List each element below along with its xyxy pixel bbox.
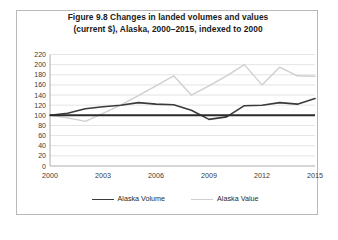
y-axis-tick-label: 180 <box>20 71 46 78</box>
y-axis-tick-label: 200 <box>20 61 46 68</box>
x-axis-tick-label: 2012 <box>242 172 282 180</box>
y-axis-tick-label: 40 <box>20 142 46 149</box>
x-axis-tick-label: 2009 <box>189 172 229 180</box>
y-axis-tick-label: 0 <box>20 163 46 170</box>
y-axis-tick-label: 140 <box>20 92 46 99</box>
y-axis-tick-label: 20 <box>20 152 46 159</box>
chart-legend: Alaska Volume Alaska Value <box>60 193 290 205</box>
legend-item-volume[interactable]: Alaska Volume <box>92 195 166 203</box>
y-axis-tick-label: 220 <box>20 51 46 58</box>
y-axis-tick-label: 80 <box>20 122 46 129</box>
y-axis-tick-label: 100 <box>20 112 46 119</box>
x-axis-tick-label: 2015 <box>295 172 335 180</box>
legend-label-volume: Alaska Volume <box>118 195 166 203</box>
legend-swatch-value <box>191 199 213 200</box>
x-axis-tick-label: 2006 <box>136 172 176 180</box>
y-axis-tick-label: 60 <box>20 132 46 139</box>
x-axis-tick-label: 2000 <box>30 172 70 180</box>
legend-item-value[interactable]: Alaska Value <box>191 195 258 203</box>
legend-label-value: Alaska Value <box>217 195 258 203</box>
legend-swatch-volume <box>92 199 114 200</box>
x-axis-tick-label: 2003 <box>83 172 123 180</box>
y-axis-tick-label: 120 <box>20 102 46 109</box>
y-axis-tick-label: 160 <box>20 81 46 88</box>
